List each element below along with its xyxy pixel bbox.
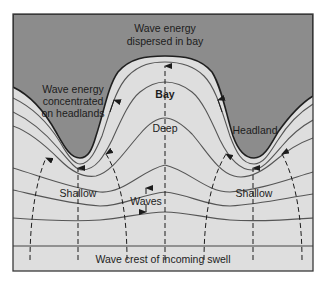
label-deep: Deep [152, 122, 177, 134]
label-headland: Headland [233, 124, 278, 136]
label-shallow-left: Shallow [60, 187, 97, 199]
label-waves: Waves [130, 195, 162, 207]
label-concentrated-2: concentrated [43, 95, 104, 107]
label-shallow-right: Shallow [236, 187, 273, 199]
label-incoming-swell: Wave crest of incoming swell [96, 253, 231, 265]
label-dispersed-2: dispersed in bay [127, 35, 204, 47]
label-concentrated-3: on headlands [41, 107, 104, 119]
label-concentrated-1: Wave energy [42, 83, 104, 95]
label-bay: Bay [155, 88, 174, 100]
wave-refraction-diagram: Wave energy dispersed in bay Wave energy… [0, 0, 324, 282]
label-dispersed-1: Wave energy [134, 22, 196, 34]
